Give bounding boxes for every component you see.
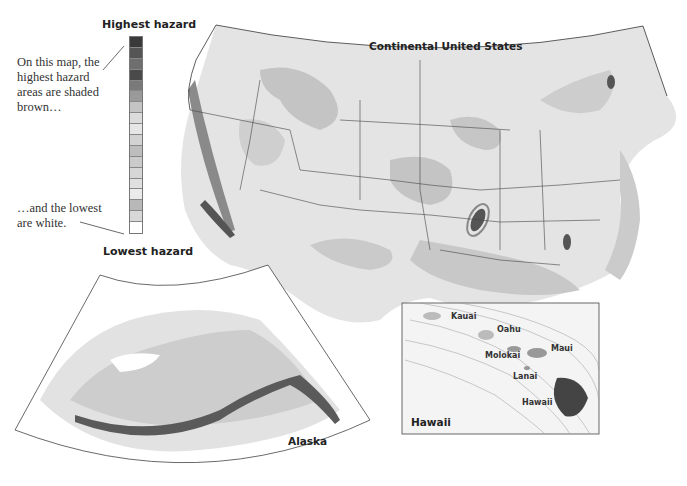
annotation-leader-top [103, 46, 124, 70]
island-label-molokai: Molokai [485, 351, 520, 360]
continental-us-title: Continental United States [369, 40, 522, 52]
hawaii-title: Hawaii [411, 416, 451, 428]
alaska-title: Alaska [288, 435, 327, 447]
annotation-leader-bottom [80, 222, 124, 234]
island-label-kauai: Kauai [451, 312, 476, 321]
island-label-oahu: Oahu [497, 325, 521, 334]
island-label-maui: Maui [551, 344, 573, 353]
hawaii-map-inset [402, 303, 599, 434]
hazard-map-graphics [0, 0, 687, 486]
island-label-hawaii: Hawaii [522, 398, 552, 407]
island-label-lanai: Lanai [513, 372, 537, 381]
